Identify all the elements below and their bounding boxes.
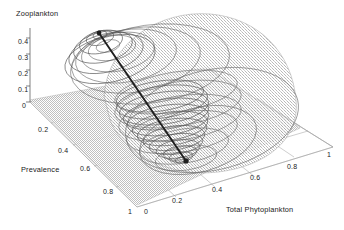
y-tick-1: 1 bbox=[128, 207, 132, 216]
z-tick-0.2: 0.2 bbox=[18, 69, 28, 78]
x-tick-0.2: 0.2 bbox=[172, 196, 182, 205]
y-tick-0.6: 0.6 bbox=[80, 164, 90, 173]
z-tick-0.4: 0.4 bbox=[18, 37, 28, 46]
x-tick-0.8: 0.8 bbox=[287, 162, 297, 171]
z-tick-0.3: 0.3 bbox=[18, 53, 28, 62]
z-tick-0.1: 0.1 bbox=[18, 85, 28, 94]
x-tick-1: 1 bbox=[327, 150, 331, 159]
z-axis-title: Zooplankton bbox=[16, 9, 58, 18]
z-tick-0: 0 bbox=[22, 101, 26, 110]
y-axis-title: Prevalence bbox=[21, 165, 59, 174]
figure-3d-phase-portrait: Zooplankton 0.4 0.3 0.2 0.1 0 Prevalence… bbox=[0, 0, 344, 230]
y-tick-0.8: 0.8 bbox=[103, 187, 113, 196]
y-tick-0.2: 0.2 bbox=[38, 125, 48, 134]
x-tick-0: 0 bbox=[144, 207, 148, 216]
y-tick-0.4: 0.4 bbox=[58, 146, 68, 155]
x-tick-0.6: 0.6 bbox=[250, 173, 260, 182]
x-axis-title: Total Phytoplankton bbox=[226, 205, 293, 214]
x-tick-0.4: 0.4 bbox=[212, 185, 222, 194]
